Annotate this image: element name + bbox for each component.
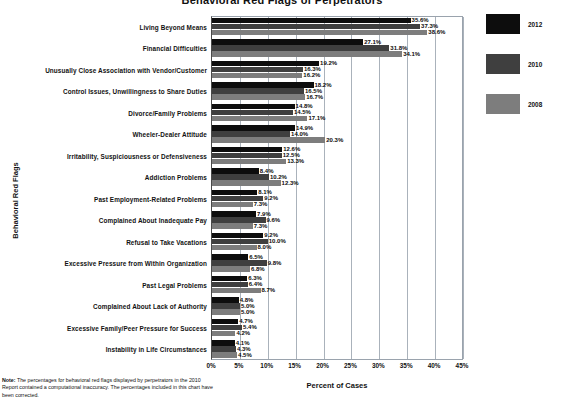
- bar-group: 9.2%10.0%8.0%: [212, 233, 463, 252]
- bar-2012: [212, 340, 235, 346]
- category-label: Financial Difficulties: [143, 45, 207, 52]
- bar-2012: [212, 82, 314, 88]
- bar-2010: [212, 88, 304, 94]
- category-label: Instability in Life Circumstances: [106, 346, 207, 353]
- bar-2010: [212, 174, 269, 180]
- bar-value-label: 20.3%: [326, 137, 343, 143]
- bar-group: 8.1%9.2%7.3%: [212, 190, 463, 209]
- bar-value-label: 16.2%: [303, 72, 320, 78]
- category-label: Past Employment-Related Problems: [94, 195, 207, 202]
- footnote-text: The percentages for behavioral red flags…: [2, 377, 213, 398]
- chart-title: Behavioral Red Flags of Perpetrators: [0, 0, 564, 6]
- bar-2008: [212, 180, 281, 186]
- bar-2008: [212, 266, 250, 272]
- bar-2010: [212, 131, 290, 137]
- bar-group: 14.9%14.0%20.3%: [212, 125, 463, 144]
- category-label: Divorce/Family Problems: [128, 109, 207, 116]
- bar-2008: [212, 331, 235, 337]
- bar-2012: [212, 233, 263, 239]
- category-label: Addiction Problems: [145, 174, 207, 181]
- bar-row: Living Beyond Means35.6%37.3%38.6%: [0, 16, 564, 38]
- bar-value-label: 13.3%: [287, 158, 304, 164]
- bar-2012: [212, 211, 256, 217]
- bar-group: 14.8%14.5%17.1%: [212, 104, 463, 123]
- bar-2010: [212, 24, 420, 30]
- x-tick-label: 25%: [344, 362, 357, 369]
- bar-rows: Living Beyond Means35.6%37.3%38.6%Financ…: [0, 16, 564, 360]
- bar-2010: [212, 303, 240, 309]
- bar-row: Divorce/Family Problems14.8%14.5%17.1%: [0, 102, 564, 124]
- legend-item[interactable]: 2010: [486, 54, 564, 84]
- bar-row: Excessive Pressure from Within Organizat…: [0, 253, 564, 275]
- bar-value-label: 8.7%: [262, 287, 276, 293]
- bar-group: 27.1%31.8%34.1%: [212, 39, 463, 58]
- bar-2010: [212, 45, 389, 51]
- bar-value-label: 9.8%: [268, 260, 282, 266]
- bar-group: 7.9%9.6%7.3%: [212, 211, 463, 230]
- x-tick-label: 30%: [372, 362, 385, 369]
- category-label: Refusal to Take Vacations: [126, 238, 207, 245]
- bar-value-label: 9.6%: [267, 217, 281, 223]
- bar-2012: [212, 104, 295, 110]
- bar-2012: [212, 254, 248, 260]
- bar-value-label: 34.1%: [403, 51, 420, 57]
- bar-row: Refusal to Take Vacations9.2%10.0%8.0%: [0, 231, 564, 253]
- bar-value-label: 6.5%: [249, 254, 263, 260]
- category-label: Wheeler-Dealer Attitude: [132, 131, 207, 138]
- bar-value-label: 6.8%: [251, 266, 265, 272]
- bar-2008: [212, 51, 402, 57]
- bar-group: 19.2%16.3%16.2%: [212, 61, 463, 80]
- bar-value-label: 5.0%: [241, 309, 255, 315]
- bar-value-label: 17.1%: [308, 115, 325, 121]
- bar-value-label: 12.3%: [282, 180, 299, 186]
- bar-2010: [212, 282, 248, 288]
- bar-2012: [212, 168, 259, 174]
- x-tick-label: 5%: [234, 362, 243, 369]
- category-label: Complained About Inadequate Pay: [99, 217, 207, 224]
- x-axis-ticks: 0%5%10%15%20%25%30%35%40%45%: [211, 362, 463, 374]
- category-label: Past Legal Problems: [142, 281, 207, 288]
- category-label: Excessive Family/Peer Pressure for Succe…: [67, 324, 207, 331]
- bar-group: 6.5%9.8%6.8%: [212, 254, 463, 273]
- bar-2008: [212, 202, 253, 208]
- bar-value-label: 4.2%: [236, 330, 250, 336]
- x-tick-label: 15%: [288, 362, 301, 369]
- bar-group: 35.6%37.3%38.6%: [212, 18, 463, 37]
- x-tick-label: 0%: [206, 362, 215, 369]
- x-tick-label: 20%: [316, 362, 329, 369]
- bar-row: Wheeler-Dealer Attitude14.9%14.0%20.3%: [0, 124, 564, 146]
- bar-group: 6.3%6.4%8.7%: [212, 276, 463, 295]
- category-label: Excessive Pressure from Within Organizat…: [65, 260, 207, 267]
- bar-2012: [212, 125, 295, 131]
- legend-item[interactable]: 2008: [486, 94, 564, 124]
- footnote-label: Note:: [2, 377, 16, 383]
- bar-row: Complained About Inadequate Pay7.9%9.6%7…: [0, 210, 564, 232]
- bar-value-label: 19.2%: [320, 60, 337, 66]
- bar-2008: [212, 159, 286, 165]
- bar-value-label: 16.7%: [306, 94, 323, 100]
- bar-value-label: 7.3%: [254, 223, 268, 229]
- bar-value-label: 8.0%: [258, 244, 272, 250]
- x-axis-title: Percent of Cases: [211, 381, 463, 390]
- chart-legend: 201220102008: [486, 14, 564, 134]
- x-tick-label: 45%: [456, 362, 469, 369]
- bar-value-label: 6.4%: [249, 281, 263, 287]
- legend-swatch-2012: [486, 14, 520, 34]
- bar-value-label: 4.5%: [238, 352, 252, 358]
- bar-group: 12.6%12.5%13.3%: [212, 147, 463, 166]
- bar-row: Addiction Problems8.4%10.2%12.3%: [0, 167, 564, 189]
- category-label: Living Beyond Means: [139, 23, 207, 30]
- bar-value-label: 10.0%: [269, 238, 286, 244]
- legend-item[interactable]: 2012: [486, 14, 564, 44]
- category-label: Control Issues, Unwillingness to Share D…: [63, 88, 207, 95]
- category-label: Irritability, Suspiciousness or Defensiv…: [67, 152, 207, 159]
- bar-group: 4.1%4.3%4.5%: [212, 340, 463, 359]
- bar-value-label: 38.6%: [428, 29, 445, 35]
- bar-row: Irritability, Suspiciousness or Defensiv…: [0, 145, 564, 167]
- bar-group: 18.2%16.5%16.7%: [212, 82, 463, 101]
- bar-2010: [212, 67, 303, 73]
- bar-2008: [212, 352, 237, 358]
- legend-swatch-2010: [486, 54, 520, 74]
- bar-row: Past Employment-Related Problems8.1%9.2%…: [0, 188, 564, 210]
- bar-row: Financial Difficulties27.1%31.8%34.1%: [0, 38, 564, 60]
